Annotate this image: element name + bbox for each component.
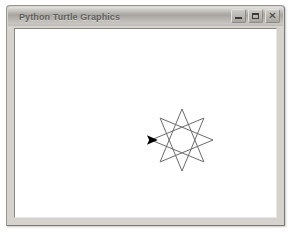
minimize-button[interactable] [231,9,246,23]
turtle-canvas-frame [14,28,277,218]
maximize-icon [252,13,259,19]
turtle-cursor-icon [147,135,158,144]
minimize-icon [235,17,242,19]
window-controls: ✕ [231,9,280,23]
screenshot-root: Python Turtle Graphics ✕ [0,0,293,238]
maximize-button[interactable] [248,9,263,23]
turtle-drawing [15,29,276,217]
window-title: Python Turtle Graphics [19,12,120,22]
window-titlebar[interactable]: Python Turtle Graphics ✕ [8,7,283,26]
turtle-canvas-area[interactable] [15,29,276,217]
star-polygon-shape [151,109,213,171]
turtle-graphics-window: Python Turtle Graphics ✕ [6,5,285,226]
close-icon: ✕ [266,10,279,22]
close-button[interactable]: ✕ [265,9,280,23]
